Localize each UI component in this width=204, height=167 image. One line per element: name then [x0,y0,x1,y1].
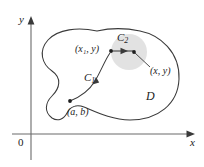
curve-c1-subscript: 1 [91,76,95,85]
curve-c2-label: C2 [117,32,128,45]
y-axis [28,16,35,160]
y-axis-label: y [19,14,24,25]
start-point-label: (a, b) [67,107,89,117]
figure-container: y x 0 (x₁, y) (x, y) (a, b) C1 C2 D [0,0,204,167]
x-axis-label: x [190,137,195,148]
region-label: D [146,90,155,102]
curve-c1-label: C1 [84,72,95,85]
figure-drawing [0,0,204,167]
x-axis [12,131,195,138]
intermediate-point-label: (x₁, y) [75,44,99,54]
curve-c2-subscript: 2 [124,36,128,45]
origin-label: 0 [18,137,24,148]
intermediate-point-dot [109,49,113,53]
end-point-label: (x, y) [150,66,171,76]
start-point-dot [68,99,72,103]
